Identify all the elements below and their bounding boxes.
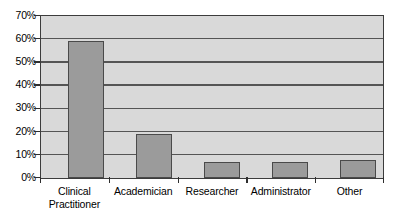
x-label-line1: Researcher <box>186 185 239 197</box>
x-label-line2: Practitioner <box>40 198 109 211</box>
y-tick-label: 30% <box>0 102 36 113</box>
x-label-line1: Academician <box>114 185 172 197</box>
x-tick-mark <box>246 177 247 183</box>
x-label-administrator: Administrator <box>246 185 315 198</box>
x-tick-mark <box>383 177 384 183</box>
x-axis: Clinical Practitioner Academician Resear… <box>40 185 384 223</box>
plot-area <box>40 15 384 179</box>
bar-clinical-practitioner <box>68 41 104 178</box>
y-tick-label: 20% <box>0 126 36 137</box>
x-label-line1: Administrator <box>251 185 311 197</box>
bar-administrator <box>272 162 308 178</box>
x-label-other: Other <box>315 185 384 198</box>
y-tick-label: 0% <box>0 172 36 183</box>
bar-researcher <box>204 162 240 178</box>
y-axis: 70% 60% 50% 40% 30% 20% 10% 0% <box>0 0 36 224</box>
bar-chart: 70% 60% 50% 40% 30% 20% 10% 0% <box>0 0 400 224</box>
y-tick-label: 60% <box>0 33 36 44</box>
x-label-clinical-practitioner: Clinical Practitioner <box>40 185 109 210</box>
x-tick-mark <box>40 177 41 183</box>
x-label-researcher: Researcher <box>178 185 247 198</box>
x-label-academician: Academician <box>109 185 178 198</box>
x-tick-mark <box>109 177 110 183</box>
x-tick-mark <box>315 177 316 183</box>
y-tick-label: 70% <box>0 10 36 21</box>
y-tick-label: 10% <box>0 149 36 160</box>
x-axis-ticks <box>40 177 384 184</box>
y-tick-label: 50% <box>0 56 36 67</box>
y-tick-label: 40% <box>0 79 36 90</box>
bars-layer <box>41 16 383 178</box>
bar-academician <box>136 134 172 178</box>
bar-other <box>340 160 376 179</box>
x-label-line1: Clinical <box>58 185 91 197</box>
x-label-line1: Other <box>337 185 363 197</box>
x-tick-mark <box>178 177 179 183</box>
